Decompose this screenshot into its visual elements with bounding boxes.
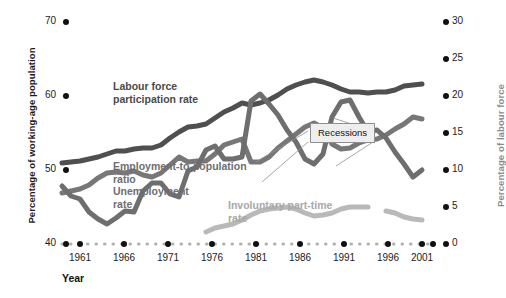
series-line-involuntary-part-time-rate-segment-b	[386, 211, 422, 220]
x-axis-tick-label-1961: 1961	[60, 252, 100, 263]
y-axis-left-tick-label-50: 50	[45, 163, 56, 174]
y-axis-right-tick-dot-5	[443, 204, 449, 210]
y-axis-right-tick-label-30: 30	[452, 15, 463, 26]
y-axis-right-tick-dot-25	[443, 56, 449, 62]
x-axis-tick-label-2001: 2001	[402, 252, 442, 263]
x-axis-tick-label-1976: 1976	[192, 252, 232, 263]
y-axis-right-tick-label-20: 20	[452, 89, 463, 100]
x-axis-tick-label-1966: 1966	[104, 252, 144, 263]
y-axis-right-tick-dot-10	[443, 167, 449, 173]
y-axis-left-tick-label-40: 40	[45, 237, 56, 248]
x-axis-tick-label-1971: 1971	[148, 252, 188, 263]
y-axis-left-tick-dot-40	[63, 241, 69, 247]
y-axis-right-tick-dot-15	[443, 130, 449, 136]
y-axis-right-tick-label-5: 5	[452, 200, 458, 211]
x-axis-tick-label-1991: 1991	[324, 252, 364, 263]
y-axis-right-tick-label-25: 25	[452, 52, 463, 63]
y-axis-left-tick-dot-60	[63, 93, 69, 99]
x-axis-title: Year	[62, 272, 84, 284]
y-axis-left-tick-dot-70	[63, 19, 69, 25]
y-axis-right-tick-label-0: 0	[452, 237, 458, 248]
y-axis-right-tick-dot-30	[443, 19, 449, 25]
x-axis-tick-dot-1981	[253, 241, 259, 247]
y-axis-left-tick-label-70: 70	[45, 15, 56, 26]
y-axis-right-tick-dot-0	[443, 241, 449, 247]
series-label-labour-force-participation-rate: Labour force participation rate	[113, 80, 198, 105]
x-axis-end-dot	[430, 241, 436, 247]
x-axis-tick-dot-1976	[209, 241, 215, 247]
x-axis-tick-dot-2001	[419, 241, 425, 247]
x-axis-tick-dot-1961	[77, 241, 83, 247]
x-axis-tick-dot-1986	[297, 241, 303, 247]
series-label-employment-to-population-ratio: Employment-to-population ratio	[113, 160, 247, 185]
x-axis-tick-label-1981: 1981	[236, 252, 276, 263]
y-axis-right-tick-label-10: 10	[452, 163, 463, 174]
y-axis-right-tick-label-15: 15	[452, 126, 463, 137]
series-label-unemployment-rate: Unemployment rate	[113, 185, 189, 210]
y-axis-right-title: Percentage of labour force	[495, 41, 506, 251]
series-label-involuntary-part-time-rate: Involuntary part-time rate	[228, 199, 332, 224]
y-axis-left-tick-dot-50	[63, 167, 69, 173]
x-axis-tick-dot-1966	[121, 241, 127, 247]
x-axis-tick-label-1986: 1986	[280, 252, 320, 263]
y-axis-right-tick-dot-20	[443, 93, 449, 99]
x-axis-tick-dot-1971	[165, 241, 171, 247]
y-axis-left-title: Percentage of working-age population	[26, 21, 37, 251]
y-axis-left-tick-label-60: 60	[45, 89, 56, 100]
x-axis-tick-dot-1991	[341, 241, 347, 247]
x-axis-tick-dot-1996	[385, 241, 391, 247]
recessions-annotation-box: Recessions	[310, 123, 375, 143]
